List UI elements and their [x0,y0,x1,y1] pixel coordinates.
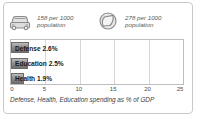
bar-row: Education 2.5% [11,58,185,69]
stats-row: 158 per 1000 population 278 per 1000 pop… [8,6,188,36]
stat-item-car: 158 per 1000 population [8,10,96,32]
x-tick-10: 10 [75,86,82,92]
bar-label-defense: Defense 2.6% [15,44,58,51]
x-tick-0: 0 [10,86,13,92]
telephone-icon [96,10,120,32]
car-icon [8,10,32,32]
bar-row: Defense 2.6% [11,42,185,53]
x-tick-20: 20 [144,86,151,92]
bar-label-health: Health 1.9% [15,75,52,82]
bar-row: Health 1.9% [11,73,185,84]
stat-unit-car: population [37,21,73,28]
x-tick-5: 5 [43,86,46,92]
bar-chart-plot: Defense 2.6%Education 2.5%Health 1.9% [10,39,184,85]
stat-text-car: 158 per 1000 population [37,14,73,29]
stat-value-telephone: 278 per 1000 [125,14,161,21]
stat-unit-telephone: population [125,21,161,28]
chart-caption: Defense, Health, Education spending as %… [10,96,190,103]
x-tick-25: 25 [177,86,184,92]
stat-value-car: 158 per 1000 [37,14,73,21]
x-axis: 0510152025 [10,86,184,95]
stat-text-telephone: 278 per 1000 population [125,14,161,29]
infographic-card: 158 per 1000 population 278 per 1000 pop… [0,0,202,121]
x-tick-15: 15 [110,86,117,92]
bar-label-education: Education 2.5% [15,60,64,67]
stat-item-telephone: 278 per 1000 population [96,10,161,32]
